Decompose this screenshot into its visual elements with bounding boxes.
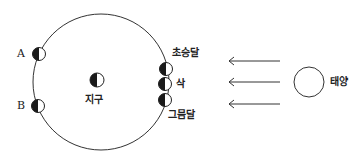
first-crescent-moon-icon <box>160 63 173 76</box>
sunlight-arrows <box>229 57 280 108</box>
new-moon-icon <box>159 78 172 91</box>
sun-icon <box>294 67 324 97</box>
label-waning-crescent: 그믐달 <box>168 110 195 120</box>
label-sun: 태양 <box>330 77 348 87</box>
arrow-left-icon <box>229 100 280 108</box>
label-first-crescent: 초승달 <box>172 48 199 58</box>
arrow-left-icon <box>229 57 280 65</box>
label-earth: 지구 <box>85 95 103 105</box>
label-b: B <box>17 100 25 111</box>
label-a: A <box>17 48 25 59</box>
arrow-left-icon <box>229 78 280 86</box>
waning-crescent-moon-icon <box>159 94 172 107</box>
moon-a-icon <box>33 48 46 61</box>
label-new-moon: 삭 <box>176 79 185 89</box>
earth-icon <box>90 73 104 87</box>
moon-b-icon <box>32 100 45 113</box>
